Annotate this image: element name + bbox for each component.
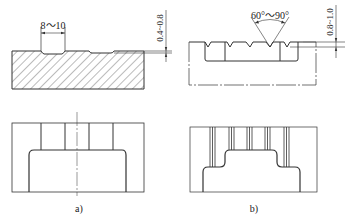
technical-drawing: 8～10 0.4~0.8 a) 60° (0, 0, 346, 223)
panel-b-label: b) (250, 203, 258, 215)
panel-a-label: a) (75, 203, 83, 215)
panel-b-plan (190, 127, 317, 192)
groove-angle-label: 60°～90° (251, 10, 289, 21)
panel-a-section-body (12, 51, 144, 89)
panel-a-plan (12, 112, 144, 196)
groove-width-label: 8～10 (41, 20, 66, 31)
groove-depth-label-b: 0.8~1.0 (325, 8, 335, 36)
groove-depth-label-a: 0.4~0.8 (155, 14, 165, 42)
panel-a-section (12, 10, 172, 89)
